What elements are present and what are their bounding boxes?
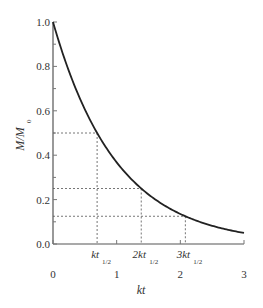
half-life-label: kt xyxy=(91,248,100,260)
half-life-subscript: 1/2 xyxy=(102,258,111,266)
x-tick-label: 3 xyxy=(241,268,247,280)
x-tick-label: 2 xyxy=(178,268,184,280)
half-life-guides xyxy=(53,133,185,244)
decay-chart: 0.00.20.40.60.81.0 0123 kt1/22kt1/23kt1/… xyxy=(0,0,263,308)
half-life-label: 3kt xyxy=(176,248,191,260)
x-tick-labels: 0123 xyxy=(50,268,247,280)
half-life-subscript: 1/2 xyxy=(149,258,158,266)
decay-curve xyxy=(53,22,244,233)
y-tick-labels: 0.00.20.40.60.81.0 xyxy=(36,16,50,250)
half-life-labels: kt1/22kt1/23kt1/2 xyxy=(91,248,203,266)
x-tick-label: 0 xyxy=(50,268,56,280)
y-tick-label: 0.0 xyxy=(36,238,50,250)
svg-text:M/M: M/M xyxy=(13,126,27,151)
x-axis-title: kt xyxy=(137,283,146,297)
y-tick-label: 0.6 xyxy=(36,105,50,117)
y-tick-label: 0.2 xyxy=(36,194,50,206)
y-tick-label: 0.8 xyxy=(36,60,50,72)
half-life-label: 2kt xyxy=(133,248,147,260)
svg-text:0: 0 xyxy=(25,119,33,123)
y-tick-label: 1.0 xyxy=(36,16,50,28)
x-tick-label: 1 xyxy=(114,268,120,280)
y-tick-label: 0.4 xyxy=(36,149,50,161)
y-axis-title: M/M 0 xyxy=(13,119,33,152)
half-life-subscript: 1/2 xyxy=(193,258,202,266)
